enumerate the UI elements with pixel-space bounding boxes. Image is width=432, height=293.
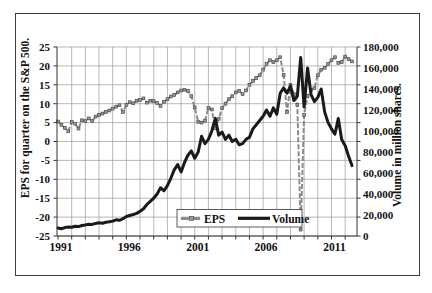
right-axis-tick-label: 20,000 [363, 209, 394, 221]
x-axis-tick-label: 1996 [118, 241, 141, 253]
left-axis-tick-label: 15 [39, 79, 51, 91]
legend-label-eps: EPS [204, 213, 225, 225]
right-axis-tick-label: 60,000 [363, 167, 394, 179]
left-axis-tick-label: 0 [45, 135, 51, 147]
eps-volume-chart: 2520151050-5-10-15-20-25180,000160,00014… [0, 0, 432, 293]
left-axis-tick-label: -10 [35, 173, 50, 185]
left-axis-tick-label: -25 [35, 230, 50, 242]
left-axis-tick-label: 25 [39, 41, 51, 53]
volume-series-line [58, 58, 352, 229]
right-axis-tick-label: 80,000 [363, 146, 394, 158]
x-axis-tick-label: 2001 [186, 241, 209, 253]
right-axis-tick-label: 180,000 [363, 41, 399, 53]
x-axis-tick-label: 1991 [50, 241, 73, 253]
x-axis-tick-label: 2006 [255, 241, 278, 253]
right-axis-tick-label: 160,000 [363, 62, 399, 74]
right-axis-title: Volume in million shares. [391, 83, 403, 207]
x-axis-tick-label: 2011 [323, 241, 346, 253]
left-axis-title: EPS for quarter on the S&P 500. [19, 38, 32, 198]
left-axis-tick-label: 5 [45, 116, 51, 128]
legend-label-volume: Volume [272, 213, 309, 225]
left-axis-tick-label: -15 [35, 192, 50, 204]
left-axis-tick-label: -20 [35, 211, 50, 223]
right-axis-tick-label: 40,000 [363, 188, 394, 200]
left-axis-tick-label: 10 [39, 98, 51, 110]
chart-figure: 2520151050-5-10-15-20-25180,000160,00014… [0, 0, 432, 293]
left-axis-tick-label: -5 [41, 154, 51, 166]
right-axis-tick-label: 0 [363, 230, 369, 242]
left-axis-tick-label: 20 [39, 60, 51, 72]
legend: EPSVolume [177, 210, 309, 228]
